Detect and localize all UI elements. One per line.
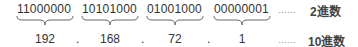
brace-icon xyxy=(146,15,204,27)
decimal-octet-3: 72 xyxy=(145,32,205,46)
separator-dot: . xyxy=(76,32,79,46)
binary-label: 2進数 xyxy=(310,2,341,19)
binary-octet-2: 10101000 xyxy=(82,2,137,16)
leader-dots: …… xyxy=(278,35,296,45)
binary-octet-4: 00000001 xyxy=(214,2,269,16)
separator-dot: . xyxy=(141,32,144,46)
decimal-octet-4: 1 xyxy=(212,32,272,46)
brace-icon xyxy=(16,15,74,27)
decimal-label: 10進数 xyxy=(308,32,345,47)
brace-icon xyxy=(81,15,139,27)
leader-dots: …… xyxy=(278,5,296,15)
binary-octet-1: 11000000 xyxy=(17,2,71,16)
decimal-octet-2: 168 xyxy=(80,32,140,46)
decimal-octet-1: 192 xyxy=(15,32,75,46)
separator-dot: . xyxy=(207,32,210,46)
brace-icon xyxy=(213,15,271,27)
binary-octet-3: 01001000 xyxy=(147,2,202,16)
